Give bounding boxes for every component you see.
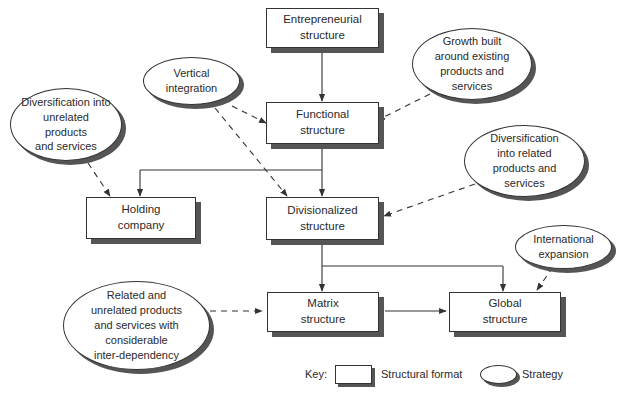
ellipse-related-unrelated: Related and unrelated products and servi… xyxy=(63,281,210,370)
ellipse-diversification-unrelated: Diversification into unrelated products … xyxy=(10,88,122,161)
ellipse-international-expansion: International expansion xyxy=(515,225,612,269)
legend-rectangle-swatch xyxy=(335,365,372,384)
box-holding-company: Holding company xyxy=(86,197,196,239)
dashed-arrow-growth-to-functional xyxy=(378,94,430,120)
dashed-arrow-international-to-global xyxy=(537,267,553,290)
box-matrix-structure: Matrix structure xyxy=(267,292,379,332)
box-entrepreneurial-structure: Entrepreneurial structure xyxy=(266,8,379,48)
legend-key-label: Key: xyxy=(305,368,327,380)
ellipse-diversification-related: Diversification into related products an… xyxy=(464,125,585,197)
legend-structural-format-label: Structural format xyxy=(381,368,462,380)
ellipse-vertical-integration: Vertical integration xyxy=(143,57,240,105)
label: Entrepreneurial structure xyxy=(283,12,362,43)
label: Holding company xyxy=(118,202,165,233)
label: Diversification into related products an… xyxy=(490,131,558,190)
legend-ellipse-swatch xyxy=(480,365,517,384)
label: Vertical integration xyxy=(166,66,217,96)
ellipse-growth-existing: Growth built around existing products an… xyxy=(412,28,532,100)
org-structure-diagram: Entrepreneurial structure Functional str… xyxy=(0,0,629,398)
label: Growth built around existing products an… xyxy=(435,34,510,93)
box-global-structure: Global structure xyxy=(449,292,561,332)
label: Related and unrelated products and servi… xyxy=(91,288,182,362)
dashed-arrow-related-to-divisionalized xyxy=(384,184,475,216)
dashed-arrow-vertical-to-functional xyxy=(232,106,266,123)
label: Divisionalized structure xyxy=(287,203,357,234)
legend-strategy-label: Strategy xyxy=(522,368,563,380)
label: Diversification into unrelated products … xyxy=(21,95,111,154)
label: International expansion xyxy=(533,232,594,262)
box-functional-structure: Functional structure xyxy=(266,102,379,144)
label: Matrix structure xyxy=(301,296,346,327)
label: Functional structure xyxy=(296,107,349,138)
dashed-arrow-unrelated-to-holding xyxy=(88,163,110,196)
box-divisionalized-structure: Divisionalized structure xyxy=(266,197,379,240)
label: Global structure xyxy=(483,296,528,327)
